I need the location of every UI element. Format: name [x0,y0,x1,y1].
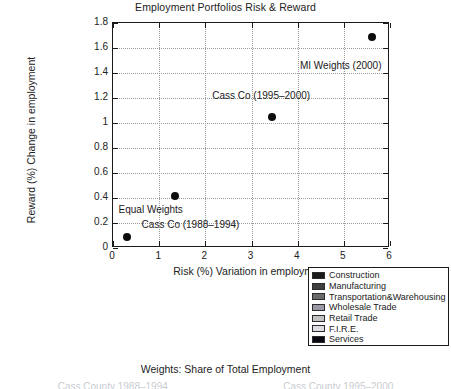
legend-swatch [312,336,325,343]
cut-caption-left: Cass County 1988–1994 [58,381,168,389]
legend-swatch [312,293,325,300]
y-tick-label: 0.2 [62,216,108,227]
x-tick-mark [113,241,114,246]
y-tick-mark [383,223,388,224]
cut-off-caption-row: Cass County 1988–1994 Cass County 1995–2… [0,381,451,389]
gridline-vertical [252,23,253,246]
legend-label: Services [329,334,364,344]
legend-item: Construction [312,270,448,281]
chart-root: Employment Portfolios Risk & Reward MI W… [0,0,451,389]
x-tick-mark [390,241,391,246]
x-tick-mark [159,23,160,28]
x-tick-label: 4 [282,250,312,261]
y-tick-mark [113,198,118,199]
y-tick-mark [383,198,388,199]
y-tick-mark [383,98,388,99]
y-tick-label: 1.6 [62,41,108,52]
legend: ConstructionManufacturingTransportation&… [308,267,449,346]
y-tick-mark [383,173,388,174]
legend-swatch [312,283,325,290]
legend-swatch [312,304,325,311]
y-tick-mark [383,48,388,49]
gridline-horizontal [113,73,388,74]
point-annotation: Cass Co (1988–1994) [142,219,240,230]
data-point [268,113,276,121]
gridline-vertical [344,23,345,246]
point-annotation: Cass Co (1995–2000) [212,90,310,101]
legend-swatch [312,315,325,322]
y-axis-title: Reward (%) Change in employment [25,30,37,250]
gridline-horizontal [113,48,388,49]
x-tick-mark [344,241,345,246]
legend-label: F.I.R.E. [329,324,359,334]
legend-item: F.I.R.E. [312,323,448,334]
plot-area: MI Weights (2000)Cass Co (1995–2000)Equa… [112,22,389,247]
y-tick-mark [383,148,388,149]
x-tick-mark [159,241,160,246]
weights-caption: Weights: Share of Total Employment [0,363,451,375]
legend-label: Manufacturing [329,281,386,291]
legend-item: Retail Trade [312,313,448,324]
gridline-horizontal [113,198,388,199]
x-tick-mark [252,241,253,246]
y-tick-mark [383,248,388,249]
legend-label: Retail Trade [329,313,378,323]
y-tick-mark [383,23,388,24]
x-tick-mark [205,23,206,28]
y-tick-mark [113,248,118,249]
legend-label: Construction [329,270,380,280]
gridline-vertical [205,23,206,246]
legend-label: Wholesale Trade [329,302,397,312]
y-tick-mark [113,173,118,174]
legend-swatch [312,272,325,279]
x-tick-label: 5 [328,250,358,261]
data-point [368,33,376,41]
y-tick-label: 1.2 [62,91,108,102]
x-tick-label: 6 [374,250,404,261]
y-tick-label: 1 [62,116,108,127]
y-tick-mark [383,123,388,124]
y-tick-mark [113,98,118,99]
y-tick-mark [113,223,118,224]
x-tick-mark [252,23,253,28]
point-annotation: MI Weights (2000) [300,60,382,71]
gridline-horizontal [113,123,388,124]
y-tick-label: 0.6 [62,166,108,177]
y-tick-label: 1.8 [62,16,108,27]
y-tick-label: 0.8 [62,141,108,152]
x-tick-mark [390,23,391,28]
gridline-vertical [298,23,299,246]
x-tick-label: 0 [97,250,127,261]
x-tick-mark [298,23,299,28]
point-annotation: Equal Weights [119,204,183,215]
chart-title: Employment Portfolios Risk & Reward [0,1,451,13]
x-tick-mark [344,23,345,28]
y-tick-mark [113,48,118,49]
y-tick-mark [113,123,118,124]
x-tick-mark [205,241,206,246]
data-point [123,233,131,241]
x-tick-mark [298,241,299,246]
legend-item: Services [312,334,448,345]
legend-swatch [312,325,325,332]
legend-item: Manufacturing [312,281,448,292]
legend-item: Wholesale Trade [312,302,448,313]
gridline-horizontal [113,173,388,174]
x-tick-label: 2 [189,250,219,261]
cut-caption-right: Cass County 1995–2000 [283,381,393,389]
data-point [171,192,179,200]
legend-item: Transportation&Warehousing [312,291,448,302]
y-tick-label: 1.4 [62,66,108,77]
x-tick-label: 1 [143,250,173,261]
y-tick-mark [113,73,118,74]
y-tick-mark [383,73,388,74]
legend-label: Transportation&Warehousing [329,292,445,302]
gridline-horizontal [113,148,388,149]
y-tick-mark [113,148,118,149]
x-tick-label: 3 [236,250,266,261]
x-tick-mark [113,23,114,28]
y-tick-label: 0.4 [62,191,108,202]
